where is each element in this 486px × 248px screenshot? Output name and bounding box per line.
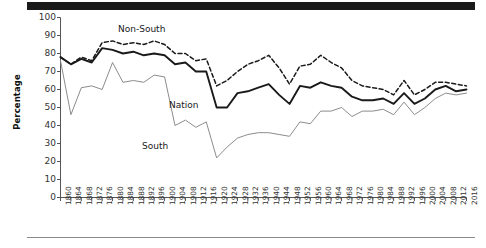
- x-tick-label: 1936: [261, 186, 270, 205]
- x-tick-label: 1924: [230, 186, 239, 205]
- chart-figure: Percentage 0102030405060708090100 186018…: [0, 0, 486, 248]
- x-tick-label: 1940: [272, 186, 281, 205]
- x-tick-label: 1912: [199, 186, 208, 205]
- series-label-non-south: Non-South: [118, 24, 165, 34]
- x-tick-label: 1996: [418, 186, 427, 205]
- x-tick-label: 1932: [251, 186, 260, 205]
- x-tick-label: 1976: [366, 186, 375, 205]
- x-tick-label: 1960: [324, 186, 333, 205]
- x-tick-label: 1988: [397, 186, 406, 205]
- x-tick-label: 1928: [241, 186, 250, 205]
- x-tick-label: 2008: [449, 186, 458, 205]
- x-tick-label: 1972: [355, 186, 364, 205]
- x-tick-label: 1904: [178, 186, 187, 205]
- x-tick-label: 1864: [74, 186, 83, 205]
- series-line-nation: [61, 48, 467, 107]
- x-tick-label: 1948: [293, 186, 302, 205]
- x-tick-label: 1964: [334, 186, 343, 205]
- x-tick-label: 2016: [470, 186, 479, 205]
- x-tick-label: 1880: [116, 186, 125, 205]
- x-tick-label: 1860: [64, 186, 73, 205]
- x-tick-label: 1868: [85, 186, 94, 205]
- x-tick-label: 2012: [459, 186, 468, 205]
- x-tick-label: 1944: [282, 186, 291, 205]
- series-label-nation: Nation: [169, 100, 199, 110]
- x-tick-label: 2004: [438, 186, 447, 205]
- x-tick-label: 1872: [95, 186, 104, 205]
- series-line-south: [61, 61, 467, 158]
- x-tick-label: 1900: [168, 186, 177, 205]
- x-tick-label: 1908: [189, 186, 198, 205]
- x-tick-label: 2000: [428, 186, 437, 205]
- x-tick-label: 1916: [209, 186, 218, 205]
- x-tick-label: 1892: [147, 186, 156, 205]
- x-tick-label: 1984: [386, 186, 395, 205]
- series-label-south: South: [142, 141, 168, 151]
- plot-area: [0, 0, 486, 248]
- x-tick-label: 1876: [105, 186, 114, 205]
- chart-canvas: [0, 0, 486, 248]
- x-tick-label: 1884: [126, 186, 135, 205]
- x-tick-label: 1980: [376, 186, 385, 205]
- x-tick-label: 1992: [407, 186, 416, 205]
- x-tick-label: 1952: [303, 186, 312, 205]
- x-tick-label: 1920: [220, 186, 229, 205]
- x-tick-label: 1956: [314, 186, 323, 205]
- x-tick-label: 1896: [157, 186, 166, 205]
- x-tick-label: 1968: [345, 186, 354, 205]
- x-tick-label: 1888: [137, 186, 146, 205]
